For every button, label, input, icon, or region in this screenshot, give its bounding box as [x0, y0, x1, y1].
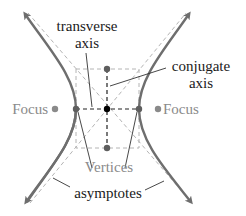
asymptotes-leader-right — [145, 181, 164, 190]
covertex-bottom-point — [104, 145, 110, 151]
focus-left-point — [52, 106, 58, 112]
focus-right-label: Focus — [163, 101, 199, 117]
asymptotes-label: asymptotes — [74, 185, 142, 201]
vertices-label: Vertices — [85, 159, 133, 175]
focus-left-label: Focus — [12, 101, 48, 117]
hyperbola-right-branch-lower — [139, 109, 191, 202]
transverse-axis-leader — [86, 53, 92, 107]
vertex-right-point — [136, 106, 142, 112]
center-point — [104, 106, 110, 112]
covertex-top-point — [104, 66, 110, 72]
asymptotes-leader-left — [53, 178, 70, 187]
conjugate-axis-label-line1: conjugate — [172, 58, 231, 74]
hyperbola-left-branch-lower-arrow — [26, 109, 76, 202]
vertex-left-point — [73, 106, 79, 112]
conjugate-axis-label-line2: axis — [189, 75, 213, 91]
transverse-axis-label-line1: transverse — [57, 18, 118, 34]
focus-right-point — [155, 106, 161, 112]
transverse-axis-label-line2: axis — [75, 35, 99, 51]
hyperbola-diagram: transverse axis conjugate axis Focus Foc… — [0, 0, 246, 216]
